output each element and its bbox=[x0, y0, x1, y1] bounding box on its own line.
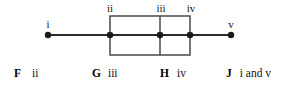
option-text-h: iv bbox=[177, 67, 186, 79]
point-label-v: v bbox=[228, 19, 234, 30]
option-letter-h: H bbox=[160, 67, 169, 79]
answer-options-row: FiiGiiiHivJi and v bbox=[0, 62, 307, 89]
point-label-ii: ii bbox=[107, 3, 113, 14]
answer-option-j[interactable]: Ji and v bbox=[226, 66, 271, 80]
answer-option-g[interactable]: Giii bbox=[92, 66, 118, 80]
option-text-j: i and v bbox=[240, 67, 271, 79]
option-letter-j: J bbox=[226, 67, 232, 79]
option-text-f: ii bbox=[32, 67, 38, 79]
option-letter-g: G bbox=[92, 67, 101, 79]
answer-option-h[interactable]: Hiv bbox=[160, 66, 186, 80]
data-point-ii bbox=[107, 32, 113, 38]
point-label-iii: iii bbox=[156, 3, 165, 14]
box-plot-question-figure: iiiiiiivv FiiGiiiHivJi and v bbox=[0, 0, 307, 89]
point-label-i: i bbox=[46, 19, 49, 30]
box-plot-diagram: iiiiiiivv bbox=[0, 0, 307, 62]
box-plot-svg bbox=[0, 0, 307, 62]
point-label-iv: iv bbox=[187, 3, 196, 14]
data-point-iv bbox=[187, 32, 193, 38]
option-text-g: iii bbox=[108, 67, 118, 79]
answer-option-f[interactable]: Fii bbox=[14, 66, 38, 80]
data-point-iii bbox=[157, 32, 163, 38]
option-letter-f: F bbox=[14, 67, 21, 79]
data-point-v bbox=[228, 32, 234, 38]
data-point-i bbox=[45, 32, 51, 38]
